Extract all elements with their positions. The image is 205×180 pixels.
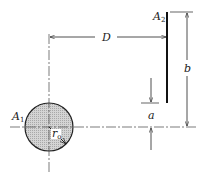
label-b: b <box>184 62 191 75</box>
label-a1: A1 <box>11 110 24 124</box>
label-d: D <box>101 31 111 44</box>
view-factor-diagram: ro A1 A2 D b a <box>0 0 205 180</box>
label-a2: A2 <box>152 10 165 24</box>
label-a: a <box>148 109 155 122</box>
